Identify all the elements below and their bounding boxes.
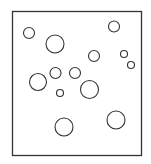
circle-group — [24, 21, 135, 136]
circle-2 — [46, 35, 64, 53]
circle-13 — [55, 118, 73, 136]
circle-5 — [121, 51, 128, 58]
circle-6 — [128, 62, 135, 69]
circle-12 — [107, 111, 125, 129]
circle-8 — [50, 68, 61, 79]
circle-11 — [81, 81, 99, 99]
circle-10 — [57, 90, 64, 97]
circle-3 — [109, 21, 120, 32]
circle-1 — [24, 28, 35, 39]
circle-4 — [89, 51, 100, 62]
circles-diagram — [0, 0, 151, 164]
frame-border — [13, 12, 142, 156]
circle-7 — [30, 74, 47, 91]
circle-9 — [70, 68, 81, 79]
